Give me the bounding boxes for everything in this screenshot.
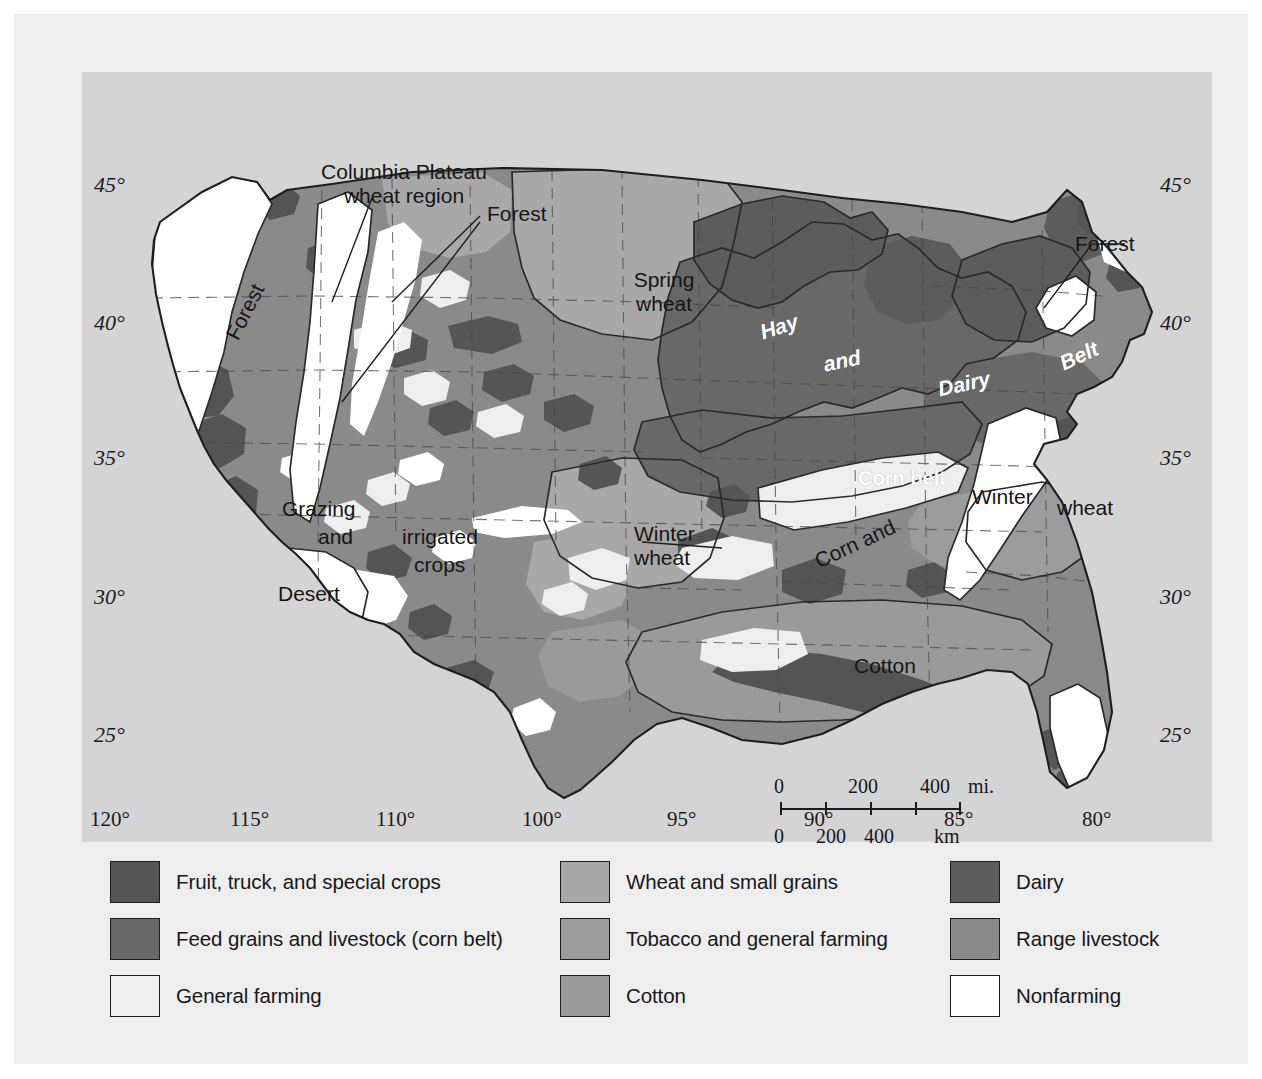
lon-label-80: 80° <box>1082 807 1111 832</box>
lon-label-90: 90° <box>804 807 833 832</box>
legend-swatch-fruit-truck <box>110 861 160 903</box>
legend-column-1: Fruit, truck, and special crops Feed gra… <box>82 859 462 1029</box>
scale-km-400: 400 <box>864 825 894 848</box>
lat-label-left-40: 40° <box>94 310 125 336</box>
legend-swatch-feed-grains <box>110 918 160 960</box>
scale-tick-3 <box>915 802 917 815</box>
legend-label-general-farming: General farming <box>176 973 321 1019</box>
lon-label-100: 100° <box>522 807 562 832</box>
lon-label-85: 85° <box>944 807 973 832</box>
label-desert: Desert <box>278 582 378 606</box>
scale-km-0: 0 <box>774 825 784 848</box>
legend-item-nonfarming[interactable]: Nonfarming <box>922 973 1262 1019</box>
lat-label-right-35: 35° <box>1160 445 1191 471</box>
lat-label-left-25: 25° <box>94 722 125 748</box>
scale-tick-2 <box>870 802 872 815</box>
lat-label-right-40: 40° <box>1160 310 1191 336</box>
scale-mi-400: 400 <box>920 775 950 798</box>
legend-swatch-nonfarming <box>950 975 1000 1017</box>
lat-label-left-30: 30° <box>94 584 125 610</box>
legend-label-range-livestock: Range livestock <box>1016 916 1159 962</box>
label-wheat-east: wheat <box>1057 496 1147 520</box>
label-forest-northeast: Forest <box>1075 232 1185 256</box>
legend-swatch-tobacco <box>560 918 610 960</box>
lat-label-left-45: 45° <box>94 172 125 198</box>
page-root: Columbia Plateau wheat region Forest For… <box>0 0 1262 1079</box>
lat-label-left-35: 35° <box>94 445 125 471</box>
scale-mi-0: 0 <box>774 775 784 798</box>
legend-item-general-farming[interactable]: General farming <box>82 973 462 1019</box>
legend-label-dairy: Dairy <box>1016 859 1063 905</box>
legend-column-3: Dairy Range livestock Nonfarming <box>922 859 1262 1029</box>
label-spring-wheat: Spring wheat <box>609 268 719 315</box>
legend-label-feed-grains: Feed grains and livestock (corn belt) <box>176 916 503 962</box>
lon-label-110: 110° <box>376 807 415 832</box>
paper-area: Columbia Plateau wheat region Forest For… <box>14 14 1248 1064</box>
legend-item-wheat-small-grains[interactable]: Wheat and small grains <box>532 859 912 905</box>
legend-item-cotton[interactable]: Cotton <box>532 973 912 1019</box>
label-corn-belt: Corn belt <box>842 467 962 489</box>
us-agricultural-regions-map <box>82 72 1212 842</box>
label-winter-east: Winter <box>972 485 1062 509</box>
scale-mi-200: 200 <box>848 775 878 798</box>
legend-swatch-dairy <box>950 861 1000 903</box>
lat-label-right-30: 30° <box>1160 584 1191 610</box>
lat-label-right-25: 25° <box>1160 722 1191 748</box>
label-and-grazing: and <box>318 525 388 549</box>
legend-label-tobacco: Tobacco and general farming <box>626 916 888 962</box>
legend-item-feed-grains[interactable]: Feed grains and livestock (corn belt) <box>82 916 462 962</box>
map-legend: Fruit, truck, and special crops Feed gra… <box>82 859 1212 1029</box>
legend-item-range-livestock[interactable]: Range livestock <box>922 916 1262 962</box>
lon-label-115: 115° <box>230 807 269 832</box>
label-winter-wheat-central: Winter wheat <box>634 522 744 569</box>
map-panel: Columbia Plateau wheat region Forest For… <box>82 72 1212 842</box>
legend-swatch-range-livestock <box>950 918 1000 960</box>
legend-label-wheat-small-grains: Wheat and small grains <box>626 859 838 905</box>
legend-swatch-general-farming <box>110 975 160 1017</box>
label-grazing: Grazing <box>282 497 392 521</box>
scale-tick-0 <box>780 802 782 815</box>
label-crops: crops <box>414 553 504 577</box>
scale-mi-unit: mi. <box>968 775 994 798</box>
lon-label-120: 120° <box>90 807 130 832</box>
label-columbia-plateau: Columbia Plateau wheat region <box>289 160 519 207</box>
lat-label-right-45: 45° <box>1160 172 1191 198</box>
legend-column-2: Wheat and small grains Tobacco and gener… <box>532 859 912 1029</box>
legend-swatch-cotton <box>560 975 610 1017</box>
label-cotton: Cotton <box>854 654 954 678</box>
legend-item-tobacco[interactable]: Tobacco and general farming <box>532 916 912 962</box>
legend-item-dairy[interactable]: Dairy <box>922 859 1262 905</box>
lon-label-95: 95° <box>667 807 696 832</box>
map-region-fills <box>82 72 1212 842</box>
legend-label-fruit-truck: Fruit, truck, and special crops <box>176 859 441 905</box>
legend-label-nonfarming: Nonfarming <box>1016 973 1121 1019</box>
label-forest-north: Forest <box>487 202 597 226</box>
legend-label-cotton: Cotton <box>626 973 686 1019</box>
legend-swatch-wheat-small-grains <box>560 861 610 903</box>
legend-item-fruit-truck[interactable]: Fruit, truck, and special crops <box>82 859 462 905</box>
label-irrigated: irrigated <box>402 525 522 549</box>
